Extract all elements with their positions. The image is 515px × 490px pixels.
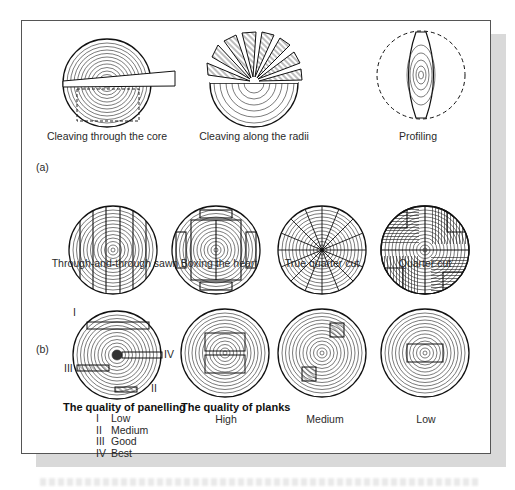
- label-cleaving-core: Cleaving through the core: [47, 130, 167, 142]
- legend-row: ILow: [96, 413, 148, 425]
- label-quarter-cut: Quarter cut: [399, 257, 452, 269]
- legend-text: Good: [111, 436, 137, 448]
- grade-high: High: [215, 413, 237, 425]
- legend-text: Best: [111, 448, 132, 460]
- figure-caption-illegible: [40, 478, 480, 486]
- plank-medium-log: [278, 309, 366, 397]
- legend-num: IV: [96, 448, 111, 460]
- label-cleaving-radii: Cleaving along the radii: [199, 130, 309, 142]
- grade-low: Low: [416, 413, 435, 425]
- panelling-log: [73, 311, 162, 399]
- plank-low-log: [381, 309, 469, 397]
- callout-ii: II: [151, 382, 157, 394]
- profiling-log: [377, 31, 465, 119]
- legend-num: I: [96, 413, 111, 425]
- label-true-quarter: True quarter cut: [285, 257, 359, 269]
- section-b-marker: (b): [36, 343, 49, 355]
- panelling-legend: ILow IIMedium IIIGood IVBest: [96, 413, 148, 459]
- through-sawn-log: [69, 206, 157, 294]
- cleaving-radii-log: [207, 32, 302, 127]
- grade-medium: Medium: [306, 413, 343, 425]
- section-a-marker: (a): [36, 161, 49, 173]
- legend-num: III: [96, 436, 111, 448]
- label-through-sawn: Through-and-through sawn: [52, 257, 179, 269]
- legend-row: IVBest: [96, 448, 148, 460]
- quarter-cut-log: [381, 206, 469, 294]
- diagram-art: [0, 0, 515, 490]
- callout-iv: IV: [164, 348, 174, 360]
- plank-high-log: [181, 309, 269, 397]
- callout-i: I: [73, 306, 76, 318]
- cleaving-core-log: [63, 39, 175, 127]
- legend-text: Low: [111, 413, 130, 425]
- legend-row: IIIGood: [96, 436, 148, 448]
- boxing-heart-log: [172, 206, 260, 294]
- planks-title: The quality of planks: [181, 401, 290, 413]
- callout-iii: III: [64, 362, 73, 374]
- true-quarter-log: [278, 206, 366, 294]
- label-profiling: Profiling: [399, 130, 437, 142]
- label-boxing-heart: Boxing the heart: [181, 257, 257, 269]
